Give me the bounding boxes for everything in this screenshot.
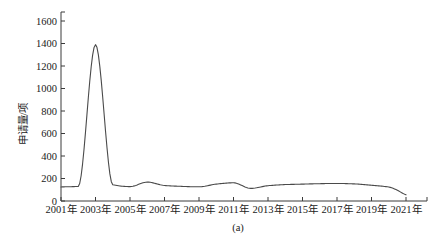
x-tick-label: 2001年 bbox=[46, 203, 77, 215]
x-tick-label: 2017年 bbox=[322, 203, 353, 215]
x-tick-label: 2015年 bbox=[287, 203, 318, 215]
y-tick-label: 1600 bbox=[36, 16, 57, 27]
patent-applications-figure: 020040060080010001200140016002001年2003年2… bbox=[0, 0, 438, 249]
y-tick-label: 1000 bbox=[36, 83, 57, 94]
axis-lines bbox=[61, 12, 427, 201]
data-line bbox=[61, 45, 406, 195]
y-axis-title: 申请量/项 bbox=[17, 102, 29, 146]
y-tick-label: 400 bbox=[41, 151, 57, 162]
y-tick-label: 1200 bbox=[36, 61, 57, 72]
x-tick-label: 2009年 bbox=[184, 203, 215, 215]
x-tick-label: 2021年 bbox=[391, 203, 422, 215]
x-tick-label: 2007年 bbox=[149, 203, 180, 215]
y-tick-label: 600 bbox=[41, 128, 57, 139]
x-tick-label: 2019年 bbox=[356, 203, 387, 215]
axes bbox=[61, 12, 427, 201]
x-tick-label: 2011年 bbox=[218, 203, 249, 215]
y-tick-label: 1400 bbox=[36, 38, 57, 49]
x-tick-label: 2013年 bbox=[253, 203, 284, 215]
y-tick-label: 800 bbox=[41, 106, 57, 117]
applications-line-chart: 020040060080010001200140016002001年2003年2… bbox=[0, 0, 438, 249]
x-tick-label: 2005年 bbox=[115, 203, 146, 215]
subplot-label: (a) bbox=[218, 222, 258, 233]
x-tick-label: 2003年 bbox=[80, 203, 111, 215]
y-tick-label: 200 bbox=[41, 173, 57, 184]
